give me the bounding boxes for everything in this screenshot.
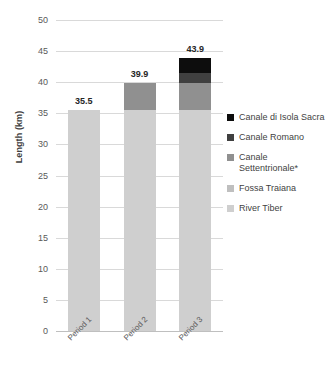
legend-item-label: Canale Settentrionale* bbox=[239, 152, 325, 174]
legend-swatch-icon bbox=[227, 205, 234, 212]
y-axis-tick-label: 50 bbox=[8, 16, 48, 25]
y-axis-tick-label: 20 bbox=[8, 203, 48, 212]
legend-item[interactable]: Canale di Isola Sacra bbox=[227, 112, 325, 123]
bar-segment[interactable] bbox=[179, 73, 211, 83]
legend-swatch-icon bbox=[227, 134, 234, 141]
legend-item[interactable]: River Tiber bbox=[227, 203, 325, 214]
bar-value-label: 35.5 bbox=[75, 96, 93, 106]
y-axis-tick-label: 40 bbox=[8, 78, 48, 87]
bar-group: 35.5 bbox=[68, 20, 100, 331]
bar-segment[interactable] bbox=[68, 110, 100, 331]
bar-value-label: 39.9 bbox=[131, 69, 149, 79]
plot-area: 35.539.943.9 bbox=[56, 20, 223, 331]
bar-segment[interactable] bbox=[124, 83, 156, 110]
y-axis-tick-label: 15 bbox=[8, 234, 48, 243]
legend: Canale di Isola SacraCanale RomanoCanale… bbox=[227, 112, 325, 223]
bar-segment[interactable] bbox=[179, 110, 211, 331]
y-axis-tick-label: 10 bbox=[8, 265, 48, 274]
bar-group: 43.9 bbox=[179, 20, 211, 331]
legend-swatch-icon bbox=[227, 185, 234, 192]
bar-stack[interactable] bbox=[179, 58, 211, 331]
y-axis-tick-label: 5 bbox=[8, 296, 48, 305]
y-axis-tick-label: 35 bbox=[8, 109, 48, 118]
legend-swatch-icon bbox=[227, 154, 234, 161]
stacked-bar-chart: Length (km) 35.539.943.9 051015202530354… bbox=[0, 0, 327, 387]
legend-item-label: Fossa Traiana bbox=[239, 183, 296, 194]
legend-swatch-icon bbox=[227, 114, 234, 121]
bar-stack[interactable] bbox=[124, 83, 156, 331]
legend-item[interactable]: Canale Settentrionale* bbox=[227, 152, 325, 174]
y-axis-tick-label: 25 bbox=[8, 172, 48, 181]
bars-layer: 35.539.943.9 bbox=[56, 20, 223, 331]
bar-value-label: 43.9 bbox=[186, 44, 204, 54]
legend-item-label: Canale Romano bbox=[239, 132, 304, 143]
legend-item-label: River Tiber bbox=[239, 203, 283, 214]
bar-segment[interactable] bbox=[124, 110, 156, 331]
bar-group: 39.9 bbox=[124, 20, 156, 331]
legend-item[interactable]: Fossa Traiana bbox=[227, 183, 325, 194]
y-axis-tick-label: 30 bbox=[8, 140, 48, 149]
legend-item-label: Canale di Isola Sacra bbox=[239, 112, 325, 123]
bar-segment[interactable] bbox=[179, 83, 211, 110]
legend-item[interactable]: Canale Romano bbox=[227, 132, 325, 143]
bar-stack[interactable] bbox=[68, 110, 100, 331]
y-axis-tick-label: 45 bbox=[8, 47, 48, 56]
bar-segment[interactable] bbox=[179, 58, 211, 73]
y-axis-tick-label: 0 bbox=[8, 327, 48, 336]
